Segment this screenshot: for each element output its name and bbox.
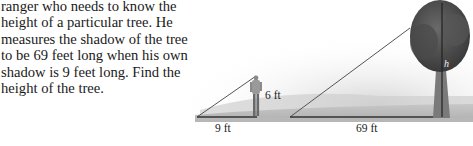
tree-height-label: h <box>444 58 449 69</box>
shadow-diagram <box>0 0 473 146</box>
man-height-label: 6 ft <box>265 89 281 101</box>
man-shadow-label: 9 ft <box>215 122 231 134</box>
tree-icon <box>410 0 470 72</box>
tree-shadow-label: 69 ft <box>356 122 377 134</box>
